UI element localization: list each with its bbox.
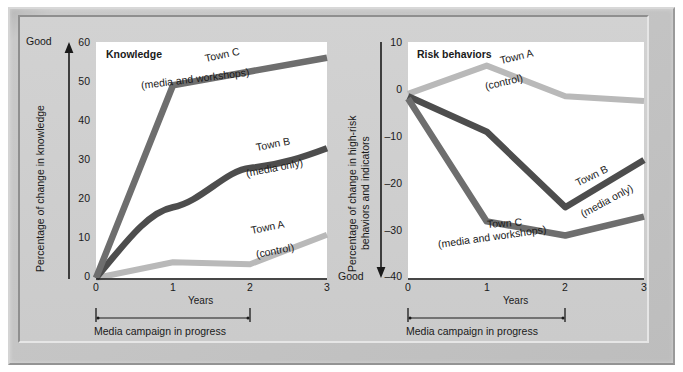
xtick-risk-0: 0 [398, 281, 418, 293]
ytick-risk-m30: –30 [369, 224, 402, 236]
ytick-risk-m10: –10 [369, 130, 402, 142]
panel-risk-behaviors: Good Percentage of change in high-risk b… [345, 0, 683, 372]
xtick-knowledge-0: 0 [86, 281, 106, 293]
good-label-knowledge: Good [26, 35, 52, 47]
xtick-knowledge-3: 3 [317, 281, 337, 293]
ytick-knowledge-40: 40 [62, 114, 90, 126]
figure-root: Good Percentage of change in knowledge 6… [0, 0, 683, 372]
ytick-risk-10: 10 [369, 36, 402, 48]
xtick-risk-3: 3 [634, 281, 654, 293]
series-line-town-a-risk [408, 66, 644, 101]
xtick-knowledge-2: 2 [240, 281, 260, 293]
campaign-bracket-label-knowledge: Media campaign in progress [94, 325, 226, 337]
y-axis-title-knowledge: Percentage of change in knowledge [34, 105, 46, 272]
ytick-knowledge-50: 50 [62, 75, 90, 87]
ytick-risk-0: 0 [369, 83, 402, 95]
campaign-bracket-knowledge [90, 306, 260, 324]
y-axis-title-risk-line1: Percentage of change in high-risk [346, 116, 358, 272]
x-axis-risk [408, 278, 644, 280]
xtick-risk-1: 1 [477, 281, 497, 293]
ytick-knowledge-10: 10 [62, 231, 90, 243]
ytick-knowledge-20: 20 [62, 192, 90, 204]
y-axis-arrow-risk [374, 40, 388, 280]
campaign-bracket-risk [402, 306, 574, 324]
ytick-knowledge-30: 30 [62, 153, 90, 165]
ytick-risk-m20: –20 [369, 177, 402, 189]
xtick-knowledge-1: 1 [163, 281, 183, 293]
x-axis-knowledge [96, 278, 327, 280]
x-axis-title-risk: Years [503, 295, 528, 306]
campaign-bracket-label-risk: Media campaign in progress [406, 325, 538, 337]
x-axis-title-knowledge: Years [188, 295, 213, 306]
xtick-risk-2: 2 [555, 281, 575, 293]
panel-knowledge: Good Percentage of change in knowledge 6… [0, 0, 345, 372]
ytick-knowledge-60: 60 [62, 36, 90, 48]
